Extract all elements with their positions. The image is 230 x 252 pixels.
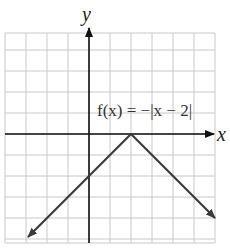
x-axis-label: x: [216, 123, 226, 145]
grid: [5, 33, 215, 243]
y-axis-label: y: [80, 3, 91, 26]
absolute-value-graph: y x f(x) = −|x − 2|: [0, 0, 230, 252]
function-label: f(x) = −|x − 2|: [97, 101, 192, 120]
function-curve: [28, 134, 215, 237]
